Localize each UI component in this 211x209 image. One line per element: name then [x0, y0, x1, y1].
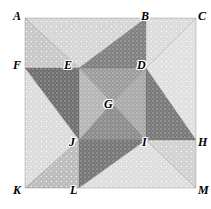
vertex-label-d: D [137, 59, 146, 71]
vertex-label-m: M [198, 184, 209, 196]
vertex-label-h: H [198, 136, 207, 148]
vertex-label-i: I [142, 136, 147, 148]
vertex-label-e: E [64, 59, 72, 71]
vertex-label-j: J [69, 136, 75, 148]
vertex-label-f: F [13, 59, 21, 71]
vertex-label-k: K [13, 184, 21, 196]
vertex-label-g: G [104, 98, 113, 110]
vertex-label-c: C [198, 10, 206, 22]
vertex-label-l: L [70, 184, 77, 196]
vertex-label-b: B [141, 10, 149, 22]
geometric-figure: ABCFEDGJIHKLM [0, 0, 211, 209]
vertex-label-a: A [13, 10, 21, 22]
